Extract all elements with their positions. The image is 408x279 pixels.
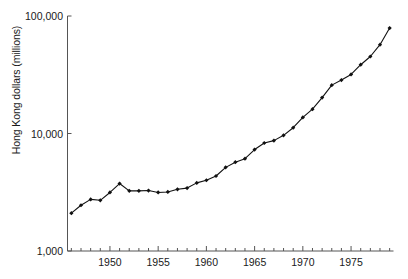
axis-spines [68, 16, 394, 251]
series-markers [69, 26, 391, 215]
x-tick-marks [71, 246, 389, 251]
y-tick-marks [68, 16, 72, 251]
chart-figure: Hong Kong dollars (millions) 1,00010,000… [0, 0, 408, 279]
series-line [71, 28, 389, 213]
plot-area [0, 0, 408, 279]
